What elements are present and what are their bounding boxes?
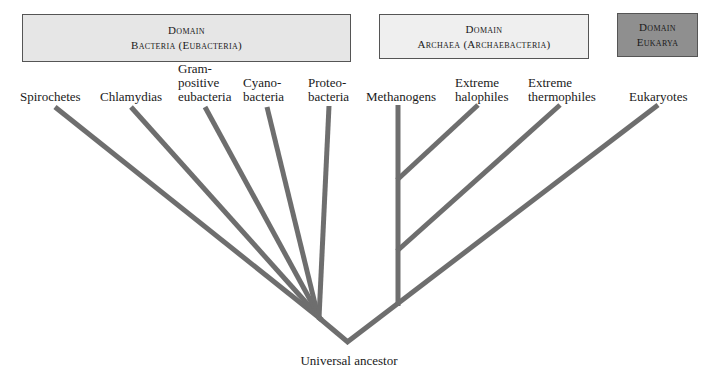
branch-extreme-thermophiles — [397, 105, 560, 251]
branch-spirochetes — [55, 107, 322, 320]
branch-proteobacteria — [319, 106, 329, 318]
branch-eukaryotes — [346, 105, 658, 343]
root-label-text: Universal ancestor — [300, 353, 397, 368]
branch-extreme-halophiles — [397, 105, 478, 180]
root-label: Universal ancestor — [300, 354, 397, 368]
phylogenetic-tree — [0, 0, 712, 380]
branch-bacteria-stem — [318, 317, 349, 343]
